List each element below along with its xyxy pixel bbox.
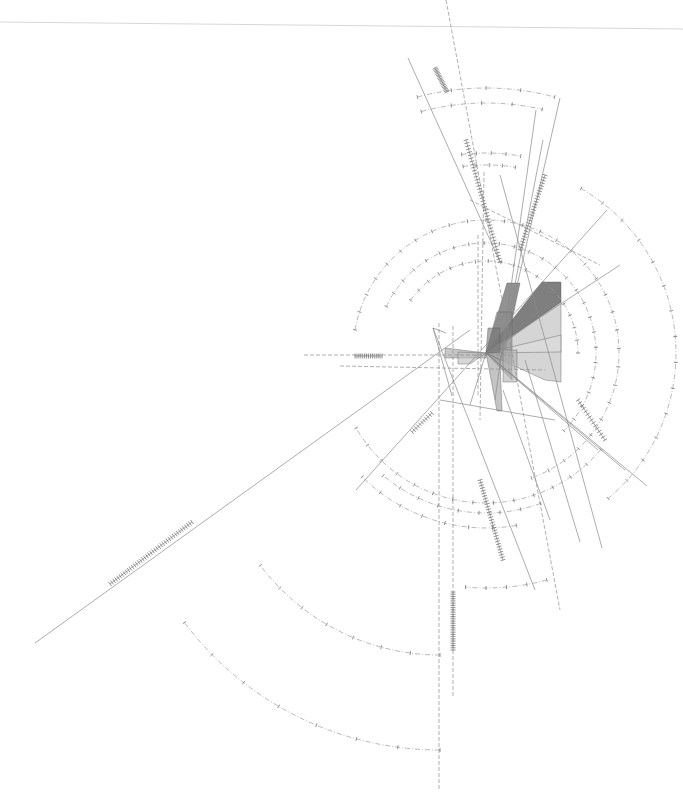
arc-tick bbox=[468, 242, 469, 246]
ruler-tick bbox=[129, 567, 132, 571]
arc-tick bbox=[358, 311, 362, 312]
arc-tick bbox=[451, 103, 452, 107]
ruler-tick bbox=[190, 520, 193, 524]
arc-tick bbox=[352, 636, 354, 640]
arc-tick bbox=[580, 187, 582, 190]
concentric-arcs bbox=[183, 86, 678, 752]
arc-tick bbox=[520, 154, 521, 158]
arc-tick bbox=[399, 486, 401, 489]
arc-tick bbox=[356, 737, 357, 741]
arc-tick bbox=[546, 578, 547, 582]
dashed-arc bbox=[184, 623, 440, 750]
ruler-tick bbox=[184, 525, 187, 529]
arc-tick bbox=[366, 444, 369, 446]
arc-tick bbox=[575, 340, 579, 341]
ruler-tick bbox=[591, 421, 595, 424]
ruler-tick bbox=[578, 401, 582, 404]
arc-tick bbox=[417, 95, 418, 99]
arc-tick bbox=[392, 292, 395, 294]
arc-tick bbox=[637, 239, 640, 241]
top-hairline bbox=[0, 22, 683, 29]
ruler-tick bbox=[135, 562, 138, 566]
arc-tick bbox=[414, 239, 416, 242]
ruler-tick bbox=[149, 551, 152, 555]
shaded-wedge bbox=[486, 353, 502, 411]
arc-tick bbox=[421, 110, 422, 114]
arc-tick bbox=[259, 564, 262, 566]
arc-tick bbox=[531, 476, 532, 480]
ruler-tick bbox=[182, 526, 185, 530]
arc-tick bbox=[504, 219, 505, 223]
arc-tick bbox=[592, 332, 596, 333]
arc-tick bbox=[569, 475, 571, 478]
ruler-tick bbox=[589, 419, 593, 422]
arc-tick bbox=[438, 272, 440, 275]
ruler-tick bbox=[131, 565, 134, 569]
ruler-tick bbox=[125, 570, 128, 574]
arc-tick bbox=[514, 245, 515, 249]
arc-tick bbox=[183, 621, 186, 623]
ruler-tick bbox=[137, 560, 140, 564]
arc-tick bbox=[572, 418, 575, 420]
arc-tick bbox=[361, 475, 364, 478]
ruler-tick bbox=[584, 410, 588, 413]
ruler-tick bbox=[164, 540, 167, 544]
arc-tick bbox=[396, 472, 398, 475]
arc-tick bbox=[516, 523, 517, 527]
ruler-tick bbox=[139, 559, 142, 563]
ruler-tick bbox=[156, 546, 159, 550]
arc-tick bbox=[615, 330, 619, 331]
arc-tick bbox=[669, 310, 673, 311]
ruler-tick bbox=[141, 557, 144, 561]
arc-tick bbox=[444, 521, 445, 525]
arc-tick bbox=[542, 257, 544, 260]
arc-tick bbox=[542, 107, 543, 111]
ruler-tick bbox=[117, 576, 120, 580]
ruler-tick bbox=[172, 534, 175, 538]
arc-tick bbox=[354, 427, 357, 429]
arc-tick bbox=[520, 507, 521, 511]
arc-tick bbox=[562, 303, 565, 305]
radiating-lines bbox=[35, 0, 647, 790]
arc-tick bbox=[381, 645, 382, 649]
arc-tick bbox=[398, 745, 399, 749]
ruler-tick bbox=[186, 523, 189, 527]
ruler-tick bbox=[123, 571, 126, 575]
arc-tick bbox=[278, 705, 280, 708]
arc-tick bbox=[374, 278, 377, 280]
ruler-tick bbox=[143, 556, 146, 560]
ruler-tick bbox=[586, 413, 590, 416]
ruler-tick bbox=[115, 577, 118, 581]
arc-tick bbox=[654, 437, 658, 439]
ruler-tick bbox=[158, 545, 161, 549]
arc-tick bbox=[583, 263, 586, 266]
arc-tick bbox=[574, 289, 577, 291]
construction-line bbox=[503, 390, 550, 520]
construction-line bbox=[525, 360, 580, 542]
arc-tick bbox=[501, 260, 502, 264]
arc-tick bbox=[613, 385, 617, 386]
ruler-tick bbox=[176, 531, 179, 535]
ruler-tick bbox=[162, 542, 165, 546]
arc-tick bbox=[555, 239, 557, 242]
arc-tick bbox=[421, 514, 422, 518]
ruler-tick bbox=[188, 522, 191, 526]
construction-line bbox=[356, 210, 607, 490]
arc-tick bbox=[520, 88, 521, 92]
arc-tick bbox=[536, 275, 538, 278]
arc-tick bbox=[514, 498, 515, 502]
arc-tick bbox=[515, 165, 516, 169]
ruler-tick bbox=[603, 439, 607, 442]
arc-tick bbox=[382, 474, 385, 477]
construction-line bbox=[433, 328, 452, 396]
construction-line bbox=[480, 172, 484, 420]
ruler-tick bbox=[147, 553, 150, 557]
arc-tick bbox=[591, 377, 595, 378]
ruler-tick bbox=[108, 582, 111, 586]
arc-tick bbox=[326, 623, 328, 626]
arc-tick bbox=[572, 327, 576, 328]
arc-tick bbox=[582, 302, 586, 304]
arc-tick bbox=[409, 299, 412, 301]
ruler-tick bbox=[152, 549, 155, 553]
dashed-arc bbox=[383, 476, 541, 513]
